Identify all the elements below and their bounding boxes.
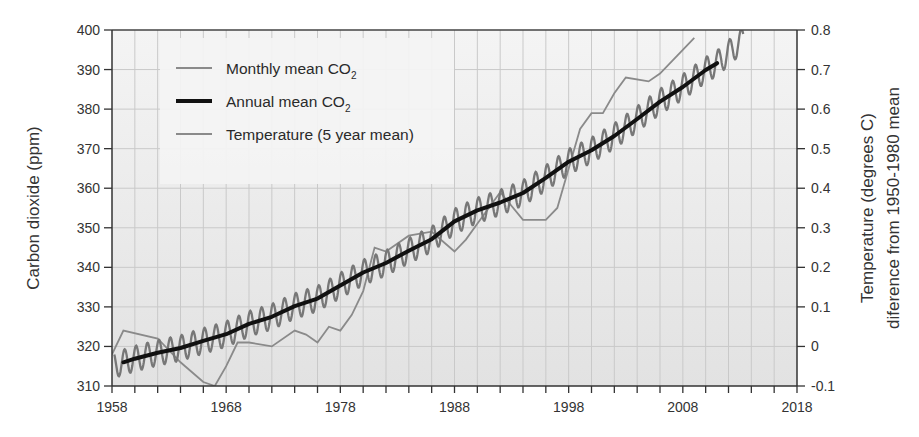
x-tick-label: 1968 (211, 399, 242, 415)
y2-tick-label: 0.8 (811, 22, 831, 38)
y-tick-label: 320 (77, 338, 101, 354)
y-tick-label: 310 (77, 378, 101, 394)
y2-tick-label: 0.3 (811, 220, 831, 236)
y2-axis-title-line2: diference from 1950-1980 mean (884, 87, 903, 329)
y2-tick-label: 0.1 (811, 299, 831, 315)
y-tick-label: 380 (77, 101, 101, 117)
y2-tick-label: 0.6 (811, 101, 831, 117)
x-tick-label: 2008 (667, 399, 698, 415)
x-tick-label: 1998 (553, 399, 584, 415)
y-tick-label: 340 (77, 259, 101, 275)
co2-temperature-chart: 1958196819781988199820082018310320330340… (0, 0, 919, 437)
y-tick-label: 360 (77, 180, 101, 196)
y2-axis-title-line1: Temperature (degrees C) (858, 113, 877, 303)
y-tick-label: 400 (77, 22, 101, 38)
y-tick-label: 390 (77, 62, 101, 78)
y-tick-label: 350 (77, 220, 101, 236)
y2-tick-label: 0 (811, 338, 819, 354)
x-tick-label: 1988 (439, 399, 470, 415)
x-tick-label: 1958 (96, 399, 127, 415)
y2-tick-label: 0.2 (811, 259, 831, 275)
y2-tick-label: 0.7 (811, 62, 831, 78)
y-tick-label: 330 (77, 299, 101, 315)
legend-label: Temperature (5 year mean) (226, 126, 414, 143)
x-tick-label: 1978 (325, 399, 356, 415)
y-axis-title: Carbon dioxide (ppm) (24, 126, 43, 289)
y2-tick-label: 0.4 (811, 180, 831, 196)
y2-tick-label: 0.5 (811, 141, 831, 157)
x-tick-label: 2018 (781, 399, 812, 415)
y-tick-label: 370 (77, 141, 101, 157)
y2-tick-label: -0.1 (811, 378, 835, 394)
